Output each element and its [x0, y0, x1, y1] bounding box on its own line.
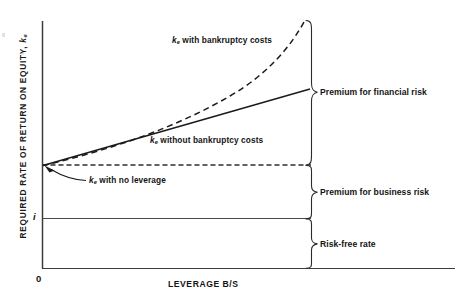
y-axis-label-subscript: e [22, 34, 28, 38]
annotation-ke-with-bankruptcy-costs: ke with bankruptcy costs [172, 36, 272, 46]
bracket-label-risk-free-rate: Risk-free rate [320, 240, 376, 249]
annotation-text: without bankruptcy costs [158, 135, 263, 145]
bracket-label-premium-financial-risk: Premium for financial risk [320, 88, 427, 97]
figure-canvas: REQUIRED RATE OF RETURN ON EQUITY, ke 0 … [0, 0, 461, 304]
y-axis-label-text: REQUIRED RATE OF RETURN ON EQUITY, [18, 46, 28, 239]
bracket-label-premium-business-risk: Premium for business risk [320, 188, 429, 197]
y-tick-label-i: i [33, 212, 36, 222]
y-axis-label: REQUIRED RATE OF RETURN ON EQUITY, ke [15, 31, 31, 241]
bracket-risk-free-rate [306, 219, 318, 268]
bracket-premium-financial-risk [306, 21, 318, 166]
ke-without-bankruptcy-costs-line [43, 89, 310, 166]
origin-label: 0 [36, 274, 41, 284]
annotation-ke-with-no-leverage: ke with no leverage [89, 176, 166, 186]
scan-artifact [2, 33, 5, 37]
annotation-text: with no leverage [97, 175, 166, 185]
no-leverage-arrowhead-icon [45, 166, 55, 173]
annotation-ke-without-bankruptcy-costs: ke without bankruptcy costs [150, 136, 263, 146]
x-axis-label: LEVERAGE B/S [168, 280, 239, 289]
y-axis-label-symbol: k [18, 37, 28, 42]
bracket-premium-business-risk [306, 166, 318, 219]
annotation-text: with bankruptcy costs [180, 35, 272, 45]
no-leverage-pointer-line [51, 170, 86, 181]
